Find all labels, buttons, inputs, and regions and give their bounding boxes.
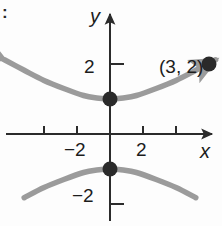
point-vertex-upper — [103, 92, 118, 107]
x-axis-label: x — [200, 141, 210, 161]
graph-figure: : — [0, 0, 222, 226]
x-tick-label-neg2: −2 — [64, 140, 86, 159]
point-vertex-lower — [103, 162, 118, 177]
point-annotation-3-2: (3, 2) — [159, 57, 203, 76]
y-tick-label-pos2: 2 — [84, 57, 95, 76]
point-3-2 — [202, 57, 217, 72]
y-axis-label: y — [90, 6, 100, 26]
y-tick-label-neg2: −2 — [72, 186, 94, 205]
coordinate-plane-svg — [0, 0, 222, 226]
x-tick-label-pos2: 2 — [136, 140, 147, 159]
